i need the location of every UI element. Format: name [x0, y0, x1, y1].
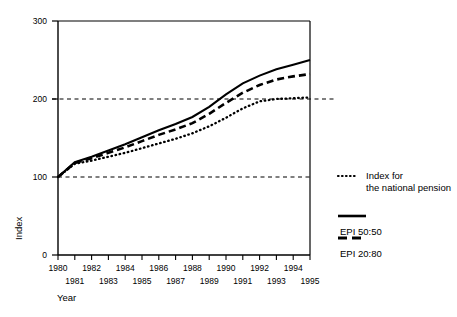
x-tick-label-1994: 1994 — [284, 263, 303, 273]
y-tick-label-300: 300 — [33, 16, 47, 26]
x-tick-label-1993: 1993 — [267, 276, 286, 286]
y-tick-label-100: 100 — [33, 172, 47, 182]
x-tick-label-1985: 1985 — [133, 276, 152, 286]
y-axis-ticks — [52, 21, 58, 255]
chart-legend: Index for the national pension EPI 50:50… — [338, 170, 451, 259]
x-tick-label-1995: 1995 — [301, 276, 320, 286]
series-line-national-pension — [58, 97, 310, 177]
x-tick-label-1986: 1986 — [149, 263, 168, 273]
x-tick-label-1980: 1980 — [49, 263, 68, 273]
series-line-epi-20-80 — [58, 74, 310, 177]
legend-label-epi-50-50: EPI 50:50 — [340, 226, 382, 237]
y-tick-label-200: 200 — [33, 94, 47, 104]
legend-label-epi-20-80: EPI 20:80 — [340, 248, 382, 259]
y-tick-label-0: 0 — [42, 250, 47, 260]
x-tick-label-1991: 1991 — [233, 276, 252, 286]
line-chart: 300 200 100 0 1980 19 — [0, 0, 457, 317]
x-tick-label-1981: 1981 — [65, 276, 84, 286]
x-tick-label-1990: 1990 — [217, 263, 236, 273]
x-tick-label-1984: 1984 — [116, 263, 135, 273]
x-tick-label-1988: 1988 — [183, 263, 202, 273]
x-tick-label-1989: 1989 — [200, 276, 219, 286]
chart-container: 300 200 100 0 1980 19 — [0, 0, 457, 317]
legend-label-national-pension-line1: Index for — [366, 170, 403, 181]
x-tick-labels-top-row: 1980 1982 1984 1986 1988 1990 1992 1994 — [49, 263, 303, 273]
x-tick-label-1992: 1992 — [250, 263, 269, 273]
legend-label-national-pension-line2: the national pension — [366, 182, 451, 193]
x-tick-label-1987: 1987 — [166, 276, 185, 286]
x-tick-label-1983: 1983 — [99, 276, 118, 286]
x-tick-label-1982: 1982 — [82, 263, 101, 273]
x-tick-labels-bottom-row: 1981 1983 1985 1987 1989 1991 1993 1995 — [65, 276, 319, 286]
x-axis-title: Year — [57, 292, 76, 303]
y-axis-title: Index — [13, 217, 24, 240]
x-axis-ticks — [58, 255, 310, 260]
